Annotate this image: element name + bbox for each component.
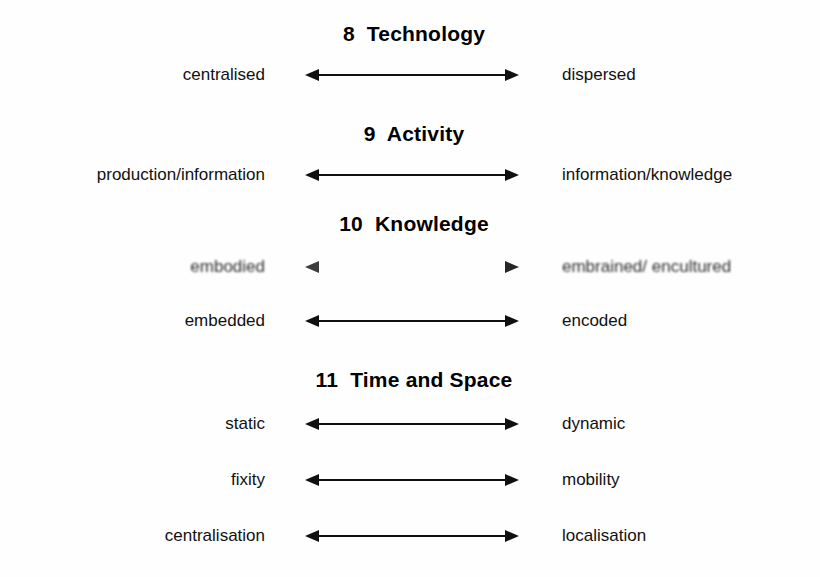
double-headed-arrow-icon [303,304,521,338]
spectrum-label-left: static [0,407,265,441]
spectrum-label-right: embrained/ encultured [562,250,818,284]
spectrum-label-left: production/information [0,158,265,192]
double-headed-arrow-icon [303,519,521,553]
section-activity: 9 Activity production/information inform… [0,122,820,192]
double-headed-arrow-icon [303,407,521,441]
spectrum-row: centralisation localisation [0,519,820,553]
section-time-and-space: 11 Time and Space static dynamic fixity [0,368,820,553]
section-technology: 8 Technology centralised dispersed [0,22,820,92]
spectrum-label-left: centralisation [0,519,265,553]
section-heading-time-and-space: 11 Time and Space [0,368,820,392]
double-headed-arrow-icon [303,250,521,284]
double-headed-arrow-icon [303,158,521,192]
section-heading-knowledge: 10 Knowledge [0,212,820,236]
section-heading-technology: 8 Technology [0,22,820,46]
spectrum-label-right: encoded [562,304,818,338]
spectrum-label-left: fixity [0,463,265,497]
spectrum-label-left: embedded [0,304,265,338]
section-heading-activity: 9 Activity [0,122,820,146]
spectrum-row-degraded: embodied [0,250,820,284]
double-headed-arrow-icon [303,463,521,497]
spectrum-label-right: dynamic [562,407,818,441]
spectrum-label-right: mobility [562,463,818,497]
spectrum-row: centralised dispersed [0,58,820,92]
spectrum-label-left: embodied [0,250,265,284]
spectrum-row: embedded encoded [0,304,820,338]
spectrum-row: production/information information/knowl… [0,158,820,192]
diagram-page: 8 Technology centralised dispersed 9 Act… [0,0,820,577]
spectrum-label-right: dispersed [562,58,818,92]
double-headed-arrow-icon [303,58,521,92]
spectrum-label-right: localisation [562,519,818,553]
spectrum-row: static dynamic [0,407,820,441]
spectrum-label-left: centralised [0,58,265,92]
spectrum-row: fixity mobility [0,463,820,497]
section-knowledge: 10 Knowledge embodied [0,212,820,338]
spectrum-label-right: information/knowledge [562,158,818,192]
